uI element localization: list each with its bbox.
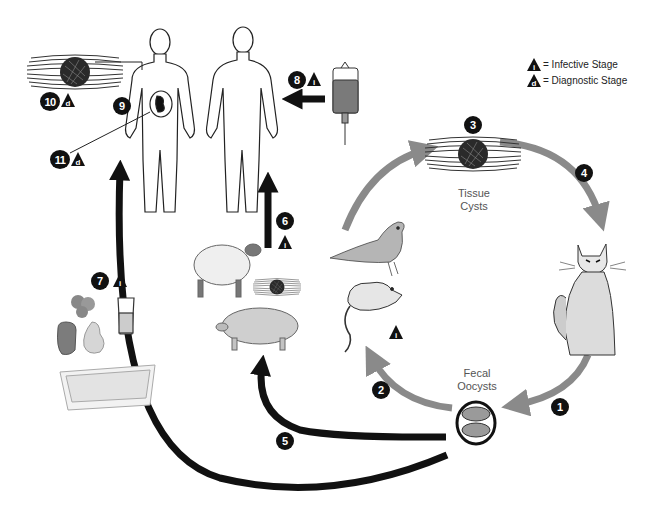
- cycle-arrow-to-oocysts: [515, 355, 588, 405]
- step-badge-10: 10: [40, 92, 60, 111]
- meat-cyst-illustration: [253, 279, 301, 296]
- legend-infective-label: = Infective Stage: [543, 59, 618, 70]
- step-badge-5: 5: [276, 432, 294, 450]
- step-badge-11: 11: [50, 150, 70, 169]
- cycle-arrow-to-tissue-cysts: [345, 150, 425, 230]
- step-badge-7: 7: [91, 272, 109, 290]
- svg-text:i: i: [533, 63, 535, 71]
- toxoplasma-life-cycle-diagram: i = Infective Stage d = Diagnostic Stage…: [0, 0, 661, 523]
- legend-infective: i = Infective Stage: [527, 56, 627, 72]
- fecal-oocysts-label-line1: Fecal: [452, 367, 502, 380]
- svg-text:d: d: [532, 79, 537, 87]
- step-badge-1: 1: [551, 398, 569, 416]
- pig-illustration: [216, 308, 298, 350]
- step-badge-3: 3: [464, 116, 482, 134]
- human-figure-female: [70, 29, 195, 212]
- fecal-oocysts-label: Fecal Oocysts: [452, 367, 502, 393]
- sheep-illustration: [194, 244, 261, 297]
- pepper-illustration: [58, 322, 77, 355]
- tissue-cyst-illustration: [425, 137, 521, 171]
- legend-diagnostic-label: = Diagnostic Stage: [543, 75, 627, 86]
- step-badge-9: 9: [113, 97, 131, 115]
- infective-stage-icon: i: [527, 58, 541, 71]
- tissue-cysts-label-line1: Tissue: [447, 187, 501, 200]
- step-badge-8: 8: [288, 71, 306, 89]
- cat-illustration: [554, 244, 626, 355]
- fecal-oocysts-label-line2: Oocysts: [452, 380, 502, 393]
- iv-bag-illustration: [333, 62, 358, 145]
- litter-box-illustration: [60, 365, 155, 410]
- step-badge-4: 4: [575, 164, 593, 182]
- human-tissue-cyst: [27, 55, 123, 89]
- legend-diagnostic: d = Diagnostic Stage: [527, 72, 627, 88]
- step-badge-6: 6: [276, 212, 294, 230]
- berries-illustration: [71, 295, 95, 318]
- water-glass-illustration: [118, 298, 134, 334]
- tissue-cysts-label: Tissue Cysts: [447, 187, 501, 213]
- bird-illustration: [330, 222, 404, 276]
- pear-illustration: [84, 322, 104, 353]
- diagnostic-stage-icon: d: [527, 74, 541, 87]
- legend: i = Infective Stage d = Diagnostic Stage: [527, 56, 627, 88]
- rodent-illustration: [345, 282, 402, 352]
- step-badge-2: 2: [372, 381, 390, 399]
- oocyst-illustration: [457, 402, 495, 444]
- tissue-cysts-label-line2: Cysts: [447, 200, 501, 213]
